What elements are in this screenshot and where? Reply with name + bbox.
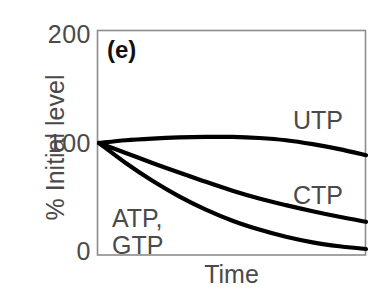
series-label-gtp: GTP (112, 233, 163, 258)
curve-utp (99, 137, 366, 155)
series-label-utp: UTP (293, 108, 343, 133)
series-label-ctp: CTP (293, 183, 343, 208)
figure-panel-e: 200 100 0 % Initial level Time (e) UTP C… (0, 0, 373, 296)
series-label-atp-gtp: ATP, GTP (112, 206, 163, 258)
series-label-atp: ATP, (112, 204, 163, 232)
plot-area (0, 0, 373, 296)
